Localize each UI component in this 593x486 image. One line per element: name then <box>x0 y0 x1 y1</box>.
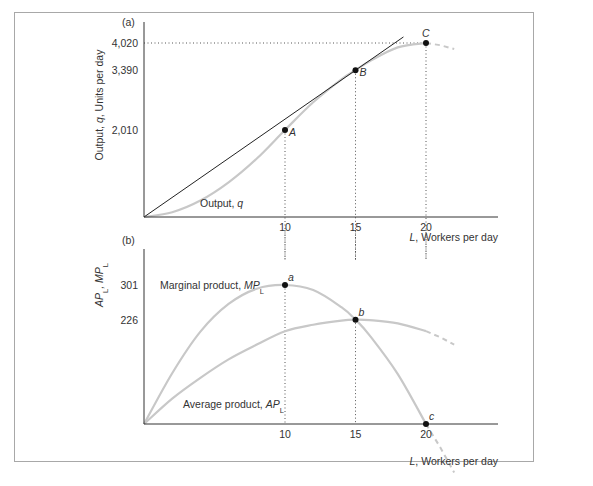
panel-b: (b)101520226301L, Workers per dayAPL, MP… <box>93 234 499 472</box>
series-extension-average-product-apl <box>426 331 454 344</box>
panel-a: (a)1015202,0103,3904,020L, Workers per d… <box>93 16 499 260</box>
y-tick-label: 2,010 <box>112 124 138 136</box>
point-A <box>282 127 288 133</box>
point-label-C: C <box>422 27 430 39</box>
series-tangent-ray-from-origin <box>144 37 403 217</box>
series-label-apl: Average product, APL <box>183 398 284 415</box>
production-chart: (a)1015202,0103,3904,020L, Workers per d… <box>0 0 593 486</box>
x-axis-label: L, Workers per day <box>409 231 498 243</box>
y-tick-label: 226 <box>120 314 138 326</box>
point-label-A: A <box>288 126 296 138</box>
x-tick-label: 10 <box>279 221 291 233</box>
point-B <box>353 67 359 73</box>
y-tick-label: 3,390 <box>112 64 138 76</box>
point-label-B: B <box>360 66 367 78</box>
point-label-c: c <box>429 410 435 422</box>
point-C <box>423 40 429 46</box>
x-tick-label: 10 <box>279 428 291 440</box>
point-label-a: a <box>288 271 294 283</box>
y-tick-label: 4,020 <box>112 37 138 49</box>
point-label-b: b <box>359 306 365 318</box>
panel-label: (b) <box>122 234 135 246</box>
y-axis-label: APL, MPL <box>93 263 110 308</box>
panel-label: (a) <box>122 16 135 28</box>
y-axis-label: Output, q, Units per day <box>93 49 105 161</box>
series-label-output: Output, q <box>200 197 243 209</box>
x-axis-label: L, Workers per day <box>409 455 498 467</box>
y-tick-label: 301 <box>120 279 138 291</box>
x-tick-label: 15 <box>350 428 362 440</box>
x-tick-label: 15 <box>350 221 362 233</box>
series-extension-output-q <box>426 43 454 49</box>
x-tick-label: 20 <box>420 428 432 440</box>
